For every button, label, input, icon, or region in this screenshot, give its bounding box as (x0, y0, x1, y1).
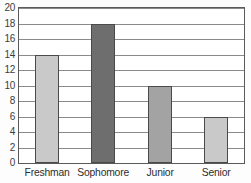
y-axis-tick-label: 2 (0, 143, 15, 153)
y-axis-tick-label: 12 (0, 65, 15, 75)
y-axis-tick-label: 8 (0, 96, 15, 106)
bar-chart-screenshot: 02468101214161820 FreshmanSophomoreJunio… (0, 0, 251, 183)
x-axis-category-label: Sophomore (77, 166, 130, 179)
bar (35, 55, 59, 164)
x-axis-category-label: Freshman (21, 166, 74, 179)
y-axis-tick-label: 18 (0, 19, 15, 29)
y-axis-tick-label: 20 (0, 3, 15, 13)
y-axis-tick-label: 4 (0, 127, 15, 137)
bar (91, 24, 115, 164)
y-axis-tick-label: 16 (0, 34, 15, 44)
bar (148, 86, 172, 164)
gridline (19, 24, 244, 25)
y-axis-tick-label: 6 (0, 112, 15, 122)
gridline (19, 39, 244, 40)
y-axis-tick-label: 14 (0, 50, 15, 60)
plot-area (18, 7, 245, 164)
bar (204, 117, 228, 164)
x-axis-category-label: Junior (133, 166, 186, 179)
y-axis-tick-label: 10 (0, 81, 15, 91)
x-axis-category-label: Senior (189, 166, 242, 179)
gridline (19, 8, 244, 9)
y-axis-tick-label: 0 (0, 158, 15, 168)
